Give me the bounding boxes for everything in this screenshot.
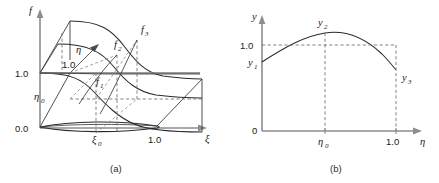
- svg-text:1: 1: [100, 82, 104, 90]
- figure-svg: f 1.0 0.0 1.0 η 0 η f 1 f 2 f 3 ξ 0 1.0 …: [0, 0, 439, 183]
- svg-text:3: 3: [144, 30, 149, 38]
- svg-text:η: η: [34, 91, 39, 102]
- panel-a-curve-label-f2: f 2: [114, 39, 122, 53]
- panel-a-curve-f3: [70, 21, 202, 79]
- panel-b-xtick-eta0: η 0: [318, 136, 329, 150]
- panel-b-ytick-0: 0: [252, 125, 257, 136]
- panel-a: f 1.0 0.0 1.0 η 0 η f 1 f 2 f 3 ξ 0 1.0 …: [15, 5, 210, 174]
- panel-b-point-label-y2: y 2: [317, 17, 328, 31]
- panel-b-axis-label-eta: η: [420, 136, 425, 147]
- panel-a-curve-label-f1: f 1: [96, 76, 104, 90]
- svg-text:ξ: ξ: [92, 134, 97, 146]
- panel-a-caption: (a): [110, 163, 122, 174]
- panel-b-curve: [262, 32, 396, 70]
- svg-text:2: 2: [324, 23, 328, 31]
- panel-a-ytick-1: 1.0: [15, 68, 28, 79]
- svg-text:0: 0: [98, 140, 102, 148]
- panel-b-point-label-y1: y 1: [247, 57, 258, 71]
- svg-text:η: η: [318, 136, 323, 147]
- panel-b-ytick-1: 1.0: [240, 40, 253, 51]
- figure-container: f 1.0 0.0 1.0 η 0 η f 1 f 2 f 3 ξ 0 1.0 …: [0, 0, 439, 183]
- panel-a-ytick-0: 0.0: [15, 123, 28, 134]
- svg-text:3: 3: [407, 78, 412, 86]
- svg-text:0: 0: [325, 142, 329, 150]
- svg-text:y: y: [317, 17, 323, 28]
- panel-b-axis-label-y: y: [251, 11, 257, 22]
- panel-a-xtick-1: 1.0: [148, 134, 161, 145]
- panel-a-axis-label-eta: η: [76, 44, 81, 55]
- panel-b-dashed-guides: [262, 33, 396, 131]
- panel-b-caption: (b): [330, 163, 342, 174]
- svg-text:y: y: [401, 72, 407, 83]
- panel-a-curve-label-f3: f 3: [141, 24, 149, 38]
- panel-b-y-axis: [259, 15, 266, 131]
- svg-text:1: 1: [254, 63, 258, 71]
- panel-a-axis-label-xi: ξ: [205, 133, 210, 145]
- panel-a-xtick-xi0: ξ 0: [92, 134, 102, 148]
- panel-a-edge-diagonal-right: [157, 79, 202, 126]
- panel-b-x-axis: [262, 128, 422, 135]
- panel-a-edge-left-mid: [40, 44, 58, 73]
- panel-b-xtick-1: 1.0: [386, 136, 399, 147]
- svg-text:2: 2: [118, 45, 122, 53]
- panel-b: y 1.0 0 y 1 y 2 y 3 η 0 1.0 η (b): [240, 11, 425, 174]
- svg-text:y: y: [247, 57, 253, 68]
- panel-b-point-label-y3: y 3: [401, 72, 412, 86]
- svg-text:0: 0: [41, 97, 45, 105]
- panel-a-edge-eta0-base: [40, 73, 70, 127]
- panel-a-axis-label-f: f: [29, 5, 34, 16]
- panel-a-depth-top-label: 1.0: [62, 59, 75, 70]
